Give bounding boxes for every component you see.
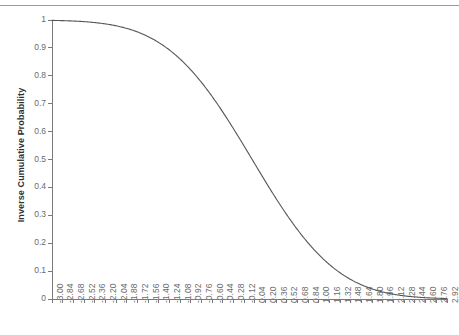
plot-area (0, 0, 459, 335)
chart-figure: Inverse Cumulative Probability 10.90.80.… (0, 0, 459, 335)
data-series-line (52, 20, 447, 298)
